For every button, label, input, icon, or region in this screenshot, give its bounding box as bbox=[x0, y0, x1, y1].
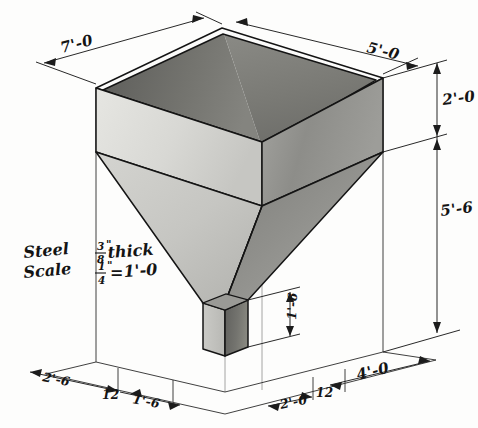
note-scale-label: Scale bbox=[23, 259, 72, 282]
notes-block: Steel Scale 3 8 " thick 1 4 " = 1'-0 bbox=[23, 238, 158, 286]
dim-ground-left-b: 1'-6 bbox=[131, 391, 161, 411]
hopper-body bbox=[96, 28, 383, 356]
scale-equals-sign: = bbox=[110, 263, 123, 282]
dim-ground-right-b: 4'-0 bbox=[355, 358, 392, 383]
ground-line-f bbox=[383, 352, 436, 360]
note-scale-value: 1 4 " = 1'-0 bbox=[95, 259, 158, 286]
isometric-hopper-drawing: 7'-0 5'-0 2'-0 5'-6 1'-6 2'-6 12 1'-6 2'… bbox=[0, 0, 478, 428]
thickness-word: thick bbox=[107, 240, 154, 262]
dim-ground-right-tick: 12 bbox=[316, 386, 333, 400]
ext-right-bottom bbox=[383, 330, 460, 352]
dim-ground-left-tick: 12 bbox=[102, 388, 119, 402]
thickness-numerator: 3 bbox=[97, 240, 104, 252]
note-material-label: Steel bbox=[23, 239, 70, 262]
ext-spout-bottom bbox=[248, 334, 300, 347]
scale-denominator: 4 bbox=[98, 274, 105, 286]
drawing-sheet: 7'-0 5'-0 2'-0 5'-6 1'-6 2'-6 12 1'-6 2'… bbox=[0, 0, 478, 428]
dim-ground-left-a: 2'-6 bbox=[40, 369, 71, 389]
dim-taper-height: 5'-6 bbox=[439, 198, 474, 220]
dim-upper-body-height: 2'-0 bbox=[440, 87, 476, 109]
ext-top-left bbox=[36, 62, 96, 84]
scale-numerator: 1 bbox=[98, 260, 105, 272]
dim-top-left-width: 7'-0 bbox=[58, 31, 95, 57]
dim-ground-right-a: 2'-0 bbox=[278, 392, 309, 413]
dim-spout-height: 1'-6 bbox=[284, 292, 300, 320]
dim-top-right-width: 5'-0 bbox=[365, 38, 402, 63]
scale-foot-value: 1'-0 bbox=[123, 260, 158, 281]
spout-left-face bbox=[203, 303, 225, 356]
